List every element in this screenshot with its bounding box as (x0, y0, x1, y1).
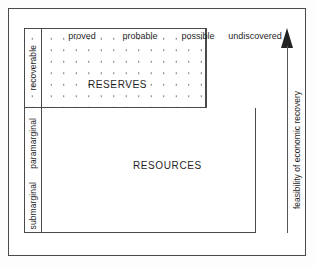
feasibility-label-submarginal-text: submarginal (29, 182, 38, 229)
feasibility-label-submarginal: submarginal (24, 178, 42, 233)
feasibility-axis-caption-text: feasibility of economic recovery (293, 91, 302, 209)
certainty-label-undiscovered: undiscovered (230, 28, 280, 44)
resources-area-label: RESOURCES (133, 160, 202, 171)
resource-classification-figure: recoverable paramarginal submarginal pro… (0, 0, 316, 267)
feasibility-label-paramarginal: paramarginal (24, 108, 42, 178)
certainty-header-row: proved probable possible undiscovered (24, 28, 256, 44)
arrow-up-icon (281, 28, 293, 48)
certainty-label-proved: proved (54, 28, 110, 44)
reserves-area-label: RESERVES (86, 79, 149, 90)
feasibility-label-paramarginal-text: paramarginal (29, 118, 38, 169)
certainty-label-probable: probable (112, 28, 168, 44)
certainty-label-possible: possible (170, 28, 226, 44)
feasibility-axis-caption: feasibility of economic recovery (288, 70, 306, 230)
